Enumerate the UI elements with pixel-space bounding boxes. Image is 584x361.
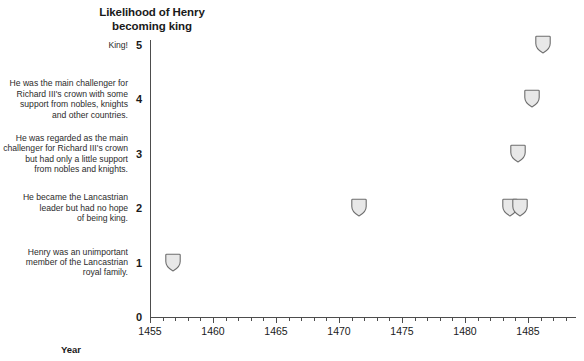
y-axis-tick-label: 4 [132, 93, 146, 105]
x-axis-minor-tick [364, 317, 365, 321]
x-axis-title: Year [0, 344, 584, 355]
x-axis-major-tick [465, 317, 466, 323]
y-axis-line [150, 40, 151, 318]
x-axis-minor-tick [314, 317, 315, 321]
x-axis-minor-tick [541, 317, 542, 321]
y-axis-description-text: King! [0, 40, 128, 50]
x-axis-major-tick [528, 317, 529, 323]
x-axis-minor-tick [452, 317, 453, 321]
y-axis-tick-label: 3 [132, 148, 146, 160]
x-axis-minor-tick [352, 317, 353, 321]
shield-icon [535, 35, 551, 54]
x-axis-title-label: Year [61, 344, 81, 355]
x-axis-tick-label: 1485 [506, 325, 550, 337]
x-axis-minor-tick [163, 317, 164, 321]
x-axis-minor-tick [188, 317, 189, 321]
shield-icon [524, 89, 540, 108]
x-axis-minor-tick [301, 317, 302, 321]
y-axis-description-text: He was the main challenger for Richard I… [0, 79, 128, 121]
x-axis-minor-tick [515, 317, 516, 321]
x-axis-minor-tick [389, 317, 390, 321]
y-axis-tick-label: 0 [132, 311, 146, 323]
shield-icon [510, 144, 526, 163]
y-axis-description-text: He was regarded as the main challenger f… [0, 133, 128, 175]
x-axis-minor-tick [326, 317, 327, 321]
x-axis-minor-tick [440, 317, 441, 321]
x-axis-tick-label: 1470 [317, 325, 361, 337]
x-axis-tick-label: 1480 [443, 325, 487, 337]
y-axis-tick-label: 2 [132, 202, 146, 214]
y-axis-description-text: He became the Lancastrian leader but had… [0, 193, 128, 224]
x-axis-major-tick [402, 317, 403, 323]
x-axis-minor-tick [377, 317, 378, 321]
x-axis-minor-tick [503, 317, 504, 321]
x-axis-minor-tick [263, 317, 264, 321]
x-axis-tick-label: 1475 [380, 325, 424, 337]
x-axis-minor-tick [427, 317, 428, 321]
x-axis-minor-tick [238, 317, 239, 321]
shield-icon [351, 198, 367, 217]
x-axis-minor-tick [226, 317, 227, 321]
x-axis-minor-tick [289, 317, 290, 321]
x-axis-major-tick [276, 317, 277, 323]
y-axis-description-text: Henry was an unimportant member of the L… [0, 247, 128, 278]
shield-icon [512, 198, 528, 217]
x-axis-minor-tick [566, 317, 567, 321]
x-axis-minor-tick [553, 317, 554, 321]
x-axis-minor-tick [415, 317, 416, 321]
y-axis-tick-label: 5 [132, 39, 146, 51]
y-axis-tick-label: 1 [132, 257, 146, 269]
x-axis-major-tick [150, 317, 151, 323]
x-axis-minor-tick [175, 317, 176, 321]
x-axis-major-tick [213, 317, 214, 323]
x-axis-tick-label: 1465 [254, 325, 298, 337]
x-axis-minor-tick [251, 317, 252, 321]
chart-title: Likelihood of Henry becoming king [78, 6, 226, 33]
x-axis-tick-label: 1460 [191, 325, 235, 337]
x-axis-minor-tick [490, 317, 491, 321]
shield-icon [165, 253, 181, 272]
chart-container: Likelihood of Henry becoming king 012345… [0, 0, 584, 361]
x-axis-minor-tick [200, 317, 201, 321]
x-axis-major-tick [339, 317, 340, 323]
x-axis-minor-tick [478, 317, 479, 321]
x-axis-tick-label: 1455 [128, 325, 172, 337]
